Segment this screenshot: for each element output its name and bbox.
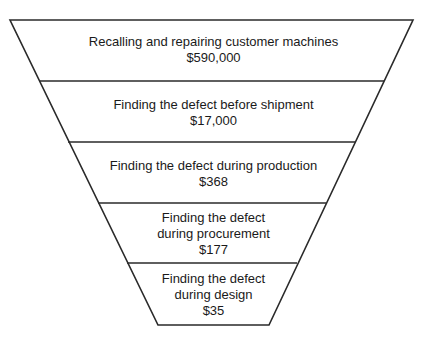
level-5-title-line-1: Finding the defect [0, 271, 427, 287]
funnel-level-3: Finding the defect during production $36… [0, 158, 427, 190]
level-3-title: Finding the defect during production [0, 158, 427, 174]
level-2-cost: $17,000 [0, 113, 427, 129]
level-2-title: Finding the defect before shipment [0, 97, 427, 113]
level-1-title: Recalling and repairing customer machine… [0, 34, 427, 50]
level-4-title-line-1: Finding the defect [0, 210, 427, 226]
funnel-level-1: Recalling and repairing customer machine… [0, 34, 427, 66]
level-4-cost: $177 [0, 242, 427, 258]
level-1-cost: $590,000 [0, 50, 427, 66]
level-4-title-line-2: during procurement [0, 226, 427, 242]
funnel-level-2: Finding the defect before shipment $17,0… [0, 97, 427, 129]
funnel-level-4: Finding the defect during procurement $1… [0, 210, 427, 258]
level-3-cost: $368 [0, 174, 427, 190]
funnel-level-5: Finding the defect during design $35 [0, 271, 427, 319]
level-5-title-line-2: during design [0, 287, 427, 303]
level-5-cost: $35 [0, 303, 427, 319]
